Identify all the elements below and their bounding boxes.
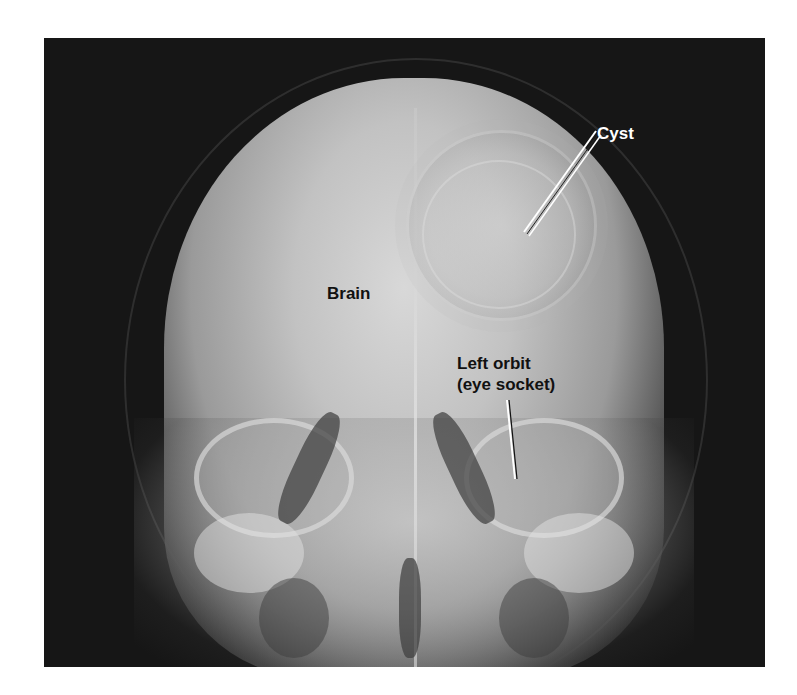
cyst-label: Cyst: [597, 124, 634, 144]
nasal-cavity: [399, 558, 421, 658]
xray-image: [44, 38, 765, 667]
maxillary-sinus-left: [499, 578, 569, 658]
left-orbit-label-line2: (eye socket): [457, 375, 555, 395]
cyst-inner-ring: [422, 160, 576, 309]
brain-label: Brain: [327, 284, 370, 304]
left-orbit-label-line1: Left orbit: [457, 354, 531, 374]
maxillary-sinus-right: [259, 578, 329, 658]
